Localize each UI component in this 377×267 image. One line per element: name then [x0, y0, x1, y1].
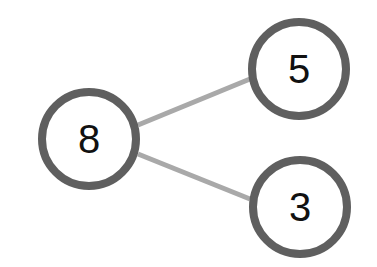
node-whole: 8: [42, 92, 136, 186]
node-label-part-bottom: 3: [289, 185, 311, 229]
node-label-part-top: 5: [288, 47, 310, 91]
node-part-top: 5: [252, 22, 346, 116]
edge-whole-to-bottom: [138, 154, 250, 199]
edge-whole-to-top: [138, 79, 250, 125]
node-part-bottom: 3: [253, 160, 347, 254]
number-bond-diagram: 8 5 3: [0, 0, 377, 267]
node-label-whole: 8: [78, 117, 100, 161]
